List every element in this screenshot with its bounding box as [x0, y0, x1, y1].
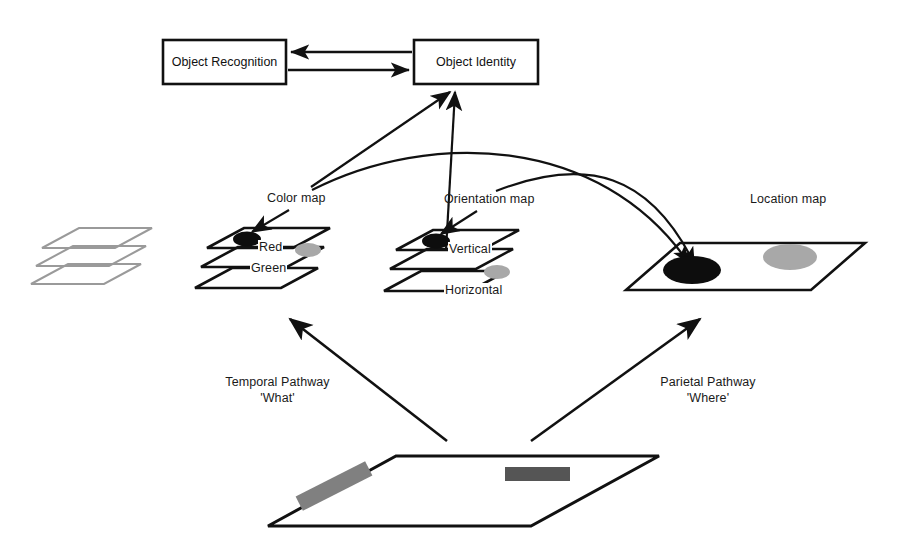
color-map-layer-label-green: Green — [250, 261, 287, 277]
orientation-map-planes — [384, 230, 519, 291]
color-map-title: Color map — [267, 191, 326, 207]
parietal-pathway-label: Parietal Pathway 'Where' — [638, 375, 778, 406]
location-map-dark-blob — [663, 256, 721, 284]
color-map-red-activation-blob — [233, 232, 261, 247]
color-map-layer-label-red: Red — [258, 240, 283, 256]
input-plane-oriented-bar — [296, 461, 373, 511]
diagram-canvas: Object Recognition Object Identity Color… — [0, 0, 906, 556]
location-map-plane — [626, 243, 865, 290]
orientation-map-vertical-activation-blob — [422, 234, 450, 249]
orientation-map-layer-label-vertical: Vertical — [448, 242, 492, 258]
object-recognition-label: Object Recognition — [163, 40, 286, 84]
orientation-map-horizontal-activation-blob — [484, 265, 510, 279]
color-map-planes — [195, 228, 330, 288]
color-map-green-activation-blob — [295, 243, 321, 257]
input-plane-horizontal-bar — [505, 467, 570, 481]
temporal-pathway-line1: Temporal Pathway — [205, 375, 350, 391]
parietal-pathway-line1: Parietal Pathway — [638, 375, 778, 391]
color-map-to-identity-arrow — [311, 92, 450, 187]
location-map-title: Location map — [750, 192, 826, 208]
parietal-pathway-line2: 'Where' — [638, 391, 778, 407]
object-identity-label: Object Identity — [414, 40, 538, 84]
orientation-map-to-location-arc — [496, 174, 694, 263]
orientation-map-layer-label-horizontal: Horizontal — [444, 283, 503, 299]
temporal-pathway-label: Temporal Pathway 'What' — [205, 375, 350, 406]
orientation-map-title: Orientation map — [444, 192, 534, 208]
location-map-gray-blob — [763, 244, 817, 270]
temporal-pathway-line2: 'What' — [205, 391, 350, 407]
input-stack-planes — [31, 228, 152, 284]
